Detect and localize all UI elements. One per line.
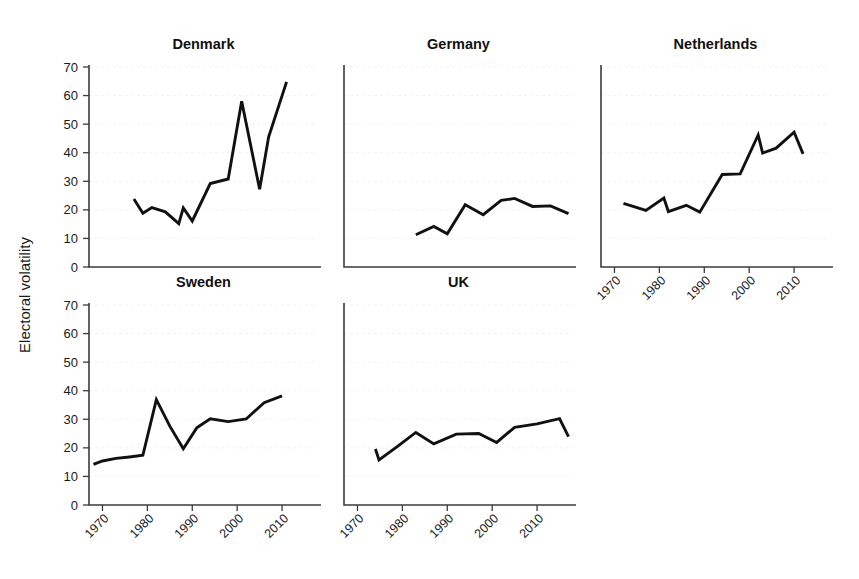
- small-multiples-figure: Electoral volatility Denmark010203040506…: [0, 0, 859, 579]
- y-tick-label: 60: [64, 88, 78, 103]
- panel-title: Sweden: [176, 274, 231, 290]
- y-tick-label: 20: [64, 202, 78, 217]
- y-tick-label: 0: [71, 498, 78, 513]
- y-tick-label: 20: [64, 440, 78, 455]
- series-line-uk: [375, 419, 568, 460]
- panel-uk: UK19701980199020002010: [337, 274, 576, 541]
- panel-germany: Germany: [344, 36, 576, 267]
- x-tick-label: 2000: [472, 511, 502, 541]
- x-tick-label: 1970: [594, 273, 624, 303]
- x-tick-label: 1990: [684, 273, 714, 303]
- panel-denmark: Denmark010203040506070: [64, 36, 321, 275]
- y-tick-label: 30: [64, 412, 78, 427]
- x-tick-label: 1970: [82, 511, 112, 541]
- y-axis-label: Electoral volatility: [16, 237, 33, 353]
- y-tick-label: 70: [64, 60, 78, 75]
- x-tick-label: 2000: [217, 511, 247, 541]
- x-tick-label: 2010: [262, 511, 292, 541]
- y-tick-label: 70: [64, 298, 78, 313]
- y-tick-label: 60: [64, 326, 78, 341]
- panel-title: Germany: [427, 36, 490, 52]
- series-line-netherlands: [623, 132, 803, 212]
- y-tick-label: 40: [64, 383, 78, 398]
- y-tick-label: 0: [71, 260, 78, 275]
- x-tick-label: 2000: [729, 273, 759, 303]
- panel-sweden: Sweden0102030405060701970198019902000201…: [64, 274, 321, 541]
- x-tick-label: 2010: [517, 511, 547, 541]
- panel-netherlands: Netherlands19701980199020002010: [594, 36, 833, 303]
- y-tick-label: 50: [64, 355, 78, 370]
- panel-title: Denmark: [172, 36, 235, 52]
- x-tick-label: 1980: [639, 273, 669, 303]
- series-line-germany: [416, 198, 569, 234]
- y-tick-label: 30: [64, 174, 78, 189]
- y-tick-label: 10: [64, 231, 78, 246]
- y-tick-label: 40: [64, 145, 78, 160]
- x-tick-label: 1970: [337, 511, 367, 541]
- x-tick-label: 1990: [427, 511, 457, 541]
- series-line-sweden: [93, 396, 282, 465]
- panel-group: Denmark010203040506070GermanyNetherlands…: [64, 36, 833, 541]
- y-tick-label: 50: [64, 117, 78, 132]
- panel-title: UK: [448, 274, 469, 290]
- x-tick-label: 1980: [127, 511, 157, 541]
- panel-title: Netherlands: [674, 36, 758, 52]
- x-tick-label: 1980: [382, 511, 412, 541]
- x-tick-label: 1990: [172, 511, 202, 541]
- y-tick-label: 10: [64, 469, 78, 484]
- figure-container: Electoral volatility Denmark010203040506…: [0, 0, 859, 579]
- x-tick-label: 2010: [774, 273, 804, 303]
